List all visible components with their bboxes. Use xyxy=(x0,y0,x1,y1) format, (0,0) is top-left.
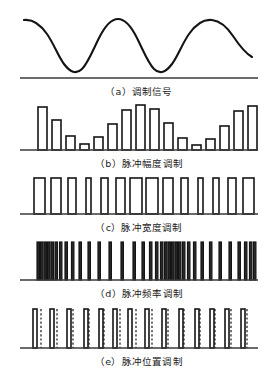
pfm-pulse xyxy=(168,242,170,280)
pam-pulse xyxy=(94,137,103,150)
modulating-signal-waveform xyxy=(0,0,278,86)
ppm-waveform xyxy=(0,300,278,356)
sine-wave-path xyxy=(24,19,252,72)
pfm-pulse xyxy=(188,242,190,280)
pfm-pulse xyxy=(72,242,74,280)
pwm-pulse xyxy=(51,178,61,214)
caption-d: （d）脉冲频率调制 xyxy=(0,288,278,300)
pfm-pulse xyxy=(210,242,212,280)
ppm-pulse xyxy=(145,309,149,348)
pfm-pulse xyxy=(65,242,67,280)
pfm-pulse xyxy=(121,242,123,280)
panel-modulating-signal: （a）调制信号 xyxy=(0,0,278,98)
pwm-pulse xyxy=(68,178,76,214)
pwm-pulse xyxy=(163,178,173,214)
pfm-pulse xyxy=(44,242,46,280)
caption-e: （e）脉冲位置调制 xyxy=(0,356,278,368)
pwm-pulse xyxy=(146,178,158,214)
pfm-pulse xyxy=(88,242,90,280)
pfm-pulse xyxy=(60,242,62,280)
pfm-pulse xyxy=(183,242,185,280)
pwm-waveform xyxy=(0,170,278,222)
pam-pulse xyxy=(220,126,229,150)
pfm-pulse xyxy=(109,242,111,280)
caption-a: （a）调制信号 xyxy=(0,86,278,98)
ppm-pulse xyxy=(113,309,117,348)
plot-pfm xyxy=(0,234,278,288)
pam-pulse xyxy=(52,120,61,150)
ppm-pulse xyxy=(99,309,103,348)
ppm-pulse xyxy=(179,309,183,348)
pam-waveform xyxy=(0,98,278,158)
pulse-modulation-figure: （a）调制信号 xyxy=(0,0,278,388)
pam-pulse xyxy=(38,107,47,150)
ppm-pulse xyxy=(162,309,166,348)
pfm-pulse xyxy=(55,242,57,280)
pam-pulse xyxy=(150,109,159,150)
caption-b: （b）脉冲幅度调制 xyxy=(0,158,278,170)
pwm-pulse xyxy=(198,178,203,214)
ppm-pulse xyxy=(225,309,229,348)
pwm-pulse xyxy=(181,178,188,214)
ppm-pulse xyxy=(128,309,132,348)
pfm-pulse xyxy=(172,242,174,280)
ppm-pulse xyxy=(84,309,88,348)
panel-pulse-position-modulation: （e）脉冲位置调制 xyxy=(0,300,278,368)
pwm-pulse xyxy=(86,178,91,214)
panel-pulse-frequency-modulation: （d）脉冲频率调制 xyxy=(0,234,278,300)
pfm-pulse xyxy=(219,242,221,280)
pam-pulse xyxy=(108,124,117,150)
plot-ppm xyxy=(0,300,278,356)
pfm-waveform xyxy=(0,234,278,288)
pfm-pulse xyxy=(79,242,81,280)
plot-modulating-signal xyxy=(0,0,278,86)
pfm-pulse xyxy=(179,242,181,280)
pam-pulse xyxy=(178,138,187,150)
pwm-pulse xyxy=(130,178,142,214)
pam-pulse xyxy=(80,144,89,150)
pwm-pulse xyxy=(101,178,108,214)
panel-pulse-amplitude-modulation: （b）脉冲幅度调制 xyxy=(0,98,278,170)
pfm-pulse xyxy=(150,242,152,280)
pfm-pulse xyxy=(254,242,256,280)
pam-pulse xyxy=(164,123,173,150)
ppm-pulse xyxy=(195,309,199,348)
ppm-pulse xyxy=(50,309,54,348)
pam-pulse-group xyxy=(38,105,257,150)
ppm-pulse xyxy=(33,309,37,348)
pfm-pulse xyxy=(41,242,43,280)
pam-pulse xyxy=(234,111,243,150)
plot-pam xyxy=(0,98,278,158)
pfm-pulse xyxy=(201,242,203,280)
pfm-pulse xyxy=(175,242,177,280)
pam-pulse xyxy=(122,110,131,150)
pwm-pulse xyxy=(243,178,254,214)
pwm-pulse-group xyxy=(34,178,254,214)
ppm-pulse-group xyxy=(33,309,245,348)
pfm-pulse xyxy=(250,242,252,280)
pfm-pulse xyxy=(98,242,100,280)
ppm-pulse xyxy=(67,309,71,348)
ppm-pulse xyxy=(241,309,245,348)
plot-pwm xyxy=(0,170,278,222)
panel-pulse-width-modulation: （c）脉冲宽度调制 xyxy=(0,170,278,234)
pam-pulse xyxy=(136,105,145,150)
pwm-pulse xyxy=(213,178,219,214)
pfm-pulse xyxy=(194,242,196,280)
pfm-pulse xyxy=(165,242,167,280)
ppm-pulse xyxy=(210,309,214,348)
pfm-pulse xyxy=(37,242,39,280)
pam-pulse xyxy=(66,136,75,150)
pam-pulse xyxy=(206,139,215,150)
caption-c: （c）脉冲宽度调制 xyxy=(0,222,278,234)
pfm-pulse xyxy=(229,242,231,280)
pwm-pulse xyxy=(228,178,236,214)
pfm-pulse xyxy=(161,242,163,280)
pam-pulse xyxy=(248,106,257,150)
pfm-pulse xyxy=(133,242,135,280)
pfm-pulse xyxy=(142,242,144,280)
pfm-pulse xyxy=(51,242,53,280)
pwm-pulse xyxy=(116,178,125,214)
ppm-reference-group xyxy=(41,309,247,348)
pfm-pulse xyxy=(238,242,240,280)
